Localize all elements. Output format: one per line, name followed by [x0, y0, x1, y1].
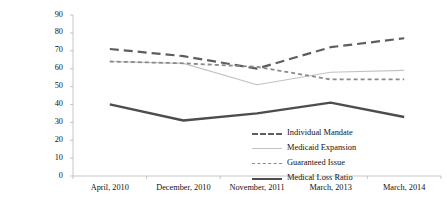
legend-item-individual-mandate: Individual Mandate — [252, 125, 442, 140]
chart-legend: Individual Mandate Medicaid Expansion Gu… — [252, 125, 442, 185]
legend-label-individual-mandate: Individual Mandate — [287, 128, 353, 137]
legend-label-guaranteed-issue: Guaranteed Issue — [287, 158, 345, 167]
plot-area — [0, 0, 447, 220]
series-line-individual-mandate — [110, 38, 404, 68]
series-line-medicaid-expansion — [110, 62, 404, 85]
legend-item-guaranteed-issue: Guaranteed Issue — [252, 155, 442, 170]
series-line-medical-loss-ratio — [110, 103, 404, 121]
legend-line-medicaid-expansion — [252, 143, 282, 153]
series-line-guaranteed-issue — [110, 62, 404, 80]
legend-line-individual-mandate — [252, 128, 282, 138]
legend-label-medicaid-expansion: Medicaid Expansion — [287, 143, 356, 152]
legend-label-medical-loss-ratio: Medical Loss Ratio — [287, 173, 353, 182]
line-chart: Percent of Respondents Correctly Identif… — [0, 0, 447, 220]
legend-item-medicaid-expansion: Medicaid Expansion — [252, 140, 442, 155]
legend-line-guaranteed-issue — [252, 158, 282, 168]
legend-item-medical-loss-ratio: Medical Loss Ratio — [252, 170, 442, 185]
legend-line-medical-loss-ratio — [252, 173, 282, 183]
